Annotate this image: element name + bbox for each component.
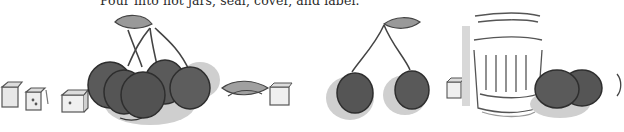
leaf-sugar-cube-icon bbox=[222, 81, 292, 105]
cherry-cluster-icon bbox=[88, 15, 220, 125]
cherry-pair-icon bbox=[326, 18, 429, 120]
sugar-cubes-left-icon bbox=[2, 82, 88, 112]
cherries-right-icon bbox=[530, 70, 621, 118]
sugar-cube-icon bbox=[447, 78, 464, 98]
glass-jar-icon bbox=[462, 13, 542, 117]
recipe-illustration bbox=[0, 0, 624, 132]
